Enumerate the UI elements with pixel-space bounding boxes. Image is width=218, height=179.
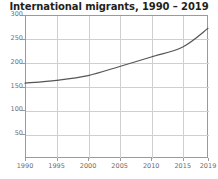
y-tick-mark xyxy=(22,87,25,88)
chart-figure: International migrants, 1990 – 2019 5010… xyxy=(0,0,218,179)
x-tick-mark xyxy=(183,158,184,161)
x-tick-mark xyxy=(120,158,121,161)
x-tick-mark xyxy=(151,158,152,161)
gridline-horizontal xyxy=(26,39,209,40)
y-tick-label: 50 xyxy=(2,130,23,137)
y-tick-label: 150 xyxy=(2,83,23,90)
y-tick-mark xyxy=(22,110,25,111)
y-tick-mark xyxy=(22,15,25,16)
x-tick-mark xyxy=(208,158,209,161)
x-tick-label: 2000 xyxy=(71,163,105,170)
chart-title: International migrants, 1990 – 2019 xyxy=(0,1,218,12)
gridline-horizontal xyxy=(26,135,209,136)
y-tick-label: 300 xyxy=(2,11,23,18)
y-tick-label: 250 xyxy=(2,35,23,42)
x-tick-label: 2019 xyxy=(191,163,218,170)
y-tick-mark xyxy=(22,134,25,135)
x-tick-mark xyxy=(88,158,89,161)
gridline-vertical xyxy=(57,16,58,159)
x-tick-label: 1990 xyxy=(8,163,42,170)
gridline-vertical xyxy=(152,16,153,159)
gridline-horizontal xyxy=(26,111,209,112)
x-tick-label: 1995 xyxy=(40,163,74,170)
y-tick-mark xyxy=(22,39,25,40)
x-tick-mark xyxy=(25,158,26,161)
gridline-vertical xyxy=(89,16,90,159)
gridline-horizontal xyxy=(26,87,209,88)
y-tick-label: 100 xyxy=(2,106,23,113)
gridline-vertical xyxy=(183,16,184,159)
gridline-horizontal xyxy=(26,63,209,64)
x-tick-label: 2010 xyxy=(134,163,168,170)
y-tick-label: 200 xyxy=(2,59,23,66)
x-tick-label: 2005 xyxy=(103,163,137,170)
x-tick-mark xyxy=(57,158,58,161)
y-axis-tick-labels: 50100150200250300 xyxy=(0,0,23,179)
plot-area xyxy=(25,15,208,158)
gridline-vertical xyxy=(120,16,121,159)
y-tick-mark xyxy=(22,63,25,64)
